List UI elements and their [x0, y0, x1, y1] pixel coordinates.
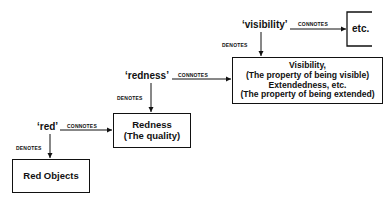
term-visibility: ‘visibility’ [242, 19, 288, 30]
redness-box-line2: (The quality) [124, 131, 180, 142]
visibility-box: Visibility, (The property of being visib… [232, 57, 383, 104]
red-denotes-label: DENOTES [16, 145, 42, 151]
visibility-box-line4: (The property of being extended) [240, 90, 374, 100]
redness-box: Redness (The quality) [113, 113, 191, 148]
visibility-denotes-label: DENOTES [222, 42, 248, 48]
redness-connotes-label: CONNOTES [178, 72, 208, 78]
etc-box-text: etc. [352, 23, 369, 34]
red-objects-box: Red Objects [12, 159, 90, 193]
red-connotes-label: CONNOTES [67, 123, 97, 129]
visibility-connotes-label: CONNOTES [298, 21, 328, 27]
redness-box-line1: Redness [132, 120, 172, 131]
red-objects-text: Red Objects [23, 171, 78, 182]
redness-denotes-label: DENOTES [117, 95, 143, 101]
term-red: ‘red’ [37, 121, 58, 132]
term-redness: ‘redness’ [125, 70, 169, 81]
